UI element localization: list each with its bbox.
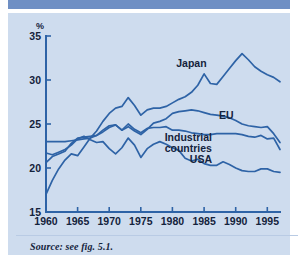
x-tick-label: 1980 [161, 215, 185, 227]
figure-container: % 35 30 25 20 15 1960 1965 1970 1975 198… [0, 0, 298, 259]
series-label-japan: Japan [176, 57, 206, 69]
series-layer [46, 54, 280, 195]
source-divider [16, 235, 298, 236]
x-tick-labels: 1960 1965 1970 1975 1980 1985 1990 1995 [34, 215, 279, 227]
x-tick-label: 1975 [129, 215, 153, 227]
series-label-industrial-countries: Industrialcountries [165, 131, 212, 154]
series-line-eu [46, 110, 280, 163]
source-note: Source: see fig. 5.1. [30, 241, 113, 252]
line-chart: % 35 30 25 20 15 1960 1965 1970 1975 198… [8, 13, 290, 255]
x-tick-label: 1985 [192, 215, 216, 227]
y-tick-label: 20 [29, 162, 41, 174]
x-tick-label: 1970 [98, 215, 122, 227]
series-label-eu: EU [219, 109, 234, 121]
y-tick-labels: 35 30 25 20 15 [29, 30, 41, 218]
top-decorative-band [8, 0, 290, 9]
chart-panel: % 35 30 25 20 15 1960 1965 1970 1975 198… [8, 13, 290, 255]
x-tick-label: 1995 [256, 215, 280, 227]
series-line-usa [46, 136, 280, 172]
series-label-usa: USA [190, 153, 213, 165]
x-tick-label: 1990 [224, 215, 248, 227]
y-tick-label: 35 [29, 30, 41, 42]
x-tick-label: 1965 [66, 215, 90, 227]
y-tick-label: 25 [29, 118, 41, 130]
y-tick-label: 30 [29, 74, 41, 86]
x-tick-label: 1960 [34, 215, 58, 227]
